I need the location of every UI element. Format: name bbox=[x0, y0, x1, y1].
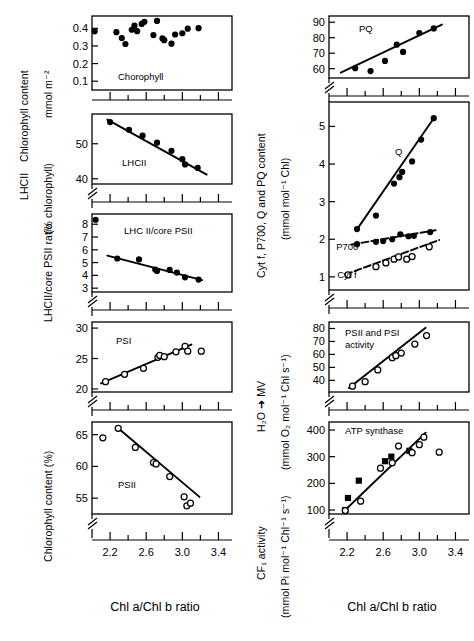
y-tick-label: 30 bbox=[76, 322, 88, 334]
data-point-open bbox=[342, 508, 348, 514]
y-tick-label: 8 bbox=[82, 218, 88, 230]
data-point-filled bbox=[179, 30, 185, 36]
data-point-open bbox=[187, 500, 193, 506]
data-point-filled bbox=[154, 140, 160, 146]
data-point-filled bbox=[391, 180, 397, 186]
data-point-open bbox=[167, 474, 173, 480]
panel-pq: 60708090PQ bbox=[299, 14, 471, 94]
axis-title-content-units: (mmol mol⁻¹ Chl) bbox=[279, 158, 291, 240]
x-tick-label: 3.0 bbox=[175, 546, 190, 558]
data-point-filled bbox=[122, 41, 128, 47]
axis-break bbox=[325, 514, 334, 538]
axis-break bbox=[325, 290, 334, 314]
y-tick-label: 4 bbox=[82, 269, 88, 281]
y-tick-label: 55 bbox=[76, 492, 88, 504]
data-point-filled bbox=[93, 217, 99, 223]
axis-break bbox=[325, 78, 334, 102]
y-tick-label: 3 bbox=[319, 196, 325, 208]
x-tick-label: 2.6 bbox=[376, 546, 391, 558]
data-point-open bbox=[181, 494, 187, 500]
data-point-open bbox=[375, 367, 381, 373]
y-tick-label: 3 bbox=[82, 282, 88, 294]
chart-lhcii_core: 345678LHC II/core PSII bbox=[62, 212, 238, 318]
data-point-square bbox=[356, 478, 362, 484]
data-point-filled bbox=[185, 26, 191, 32]
data-point-filled bbox=[131, 23, 137, 29]
panel-lhcii: 4050LHCII bbox=[62, 112, 234, 204]
axis-title-chlorophyll-content: Chlorophyll content bbox=[18, 70, 30, 162]
data-point-filled bbox=[405, 233, 411, 239]
data-point-open bbox=[185, 348, 191, 354]
y-tick-label: 2 bbox=[319, 233, 325, 245]
data-point-filled bbox=[126, 127, 132, 133]
data-point-filled bbox=[352, 65, 358, 71]
data-point-filled bbox=[174, 269, 180, 275]
data-point-open bbox=[436, 449, 442, 455]
x-axis-label-right: Chl a/Chl b ratio bbox=[322, 600, 462, 614]
data-point-open bbox=[349, 383, 355, 389]
x-tick-label: 2.2 bbox=[339, 546, 354, 558]
chart-psi: 202530PSI bbox=[62, 320, 238, 418]
data-point-open bbox=[132, 444, 138, 450]
y-tick-label: 80 bbox=[313, 322, 325, 334]
data-point-filled bbox=[394, 42, 400, 48]
data-point-filled bbox=[92, 28, 98, 34]
data-point-filled bbox=[172, 31, 178, 37]
chart-content: 12345QP700Cyt f bbox=[299, 100, 474, 316]
data-point-filled bbox=[141, 19, 147, 25]
panel-chlorophyll: 0.10.20.30.4Chorophyll bbox=[62, 14, 234, 106]
y-tick-label: 20 bbox=[76, 383, 88, 395]
plot-title-chlorophyll: Chorophyll bbox=[118, 71, 163, 82]
data-point-filled bbox=[400, 49, 406, 55]
data-point-filled bbox=[139, 133, 145, 139]
data-point-filled bbox=[161, 37, 167, 43]
data-point-open bbox=[396, 443, 402, 449]
series-psi bbox=[103, 343, 205, 384]
data-point-open bbox=[362, 379, 368, 385]
data-point-open bbox=[416, 442, 422, 448]
plot-title-lhcii: LHCII bbox=[122, 157, 146, 168]
y-tick-label: 100 bbox=[307, 504, 325, 516]
y-tick-label: 40 bbox=[76, 173, 88, 185]
data-point-filled bbox=[431, 115, 437, 121]
series-chlorophyll bbox=[92, 18, 202, 47]
panel-psi: 202530PSI bbox=[62, 320, 234, 412]
x-axis-label-left: Chl a/Chl b ratio bbox=[85, 600, 225, 614]
data-point-open bbox=[409, 254, 415, 260]
data-point-open bbox=[421, 434, 427, 440]
y-tick-label: 50 bbox=[313, 361, 325, 373]
y-tick-label: 65 bbox=[76, 429, 88, 441]
axis-title-lhcii-core-psii: LHCII/core PSII ratio bbox=[42, 224, 54, 322]
data-point-filled bbox=[354, 226, 360, 232]
panel-cf1: 1002003004002.22.63.03.4ATP synthase bbox=[299, 420, 471, 560]
axis-title-activity-units: (mmol O₂ mol⁻¹ Chl s⁻¹) bbox=[279, 354, 291, 470]
data-point-filled bbox=[136, 256, 142, 262]
axis-title-chlorophyll-percent: Chlorophyll content (%) bbox=[42, 451, 54, 562]
data-point-filled bbox=[182, 161, 188, 167]
y-tick-label: 60 bbox=[313, 63, 325, 75]
panel-activity: 4050607080PSII and PSIactivity bbox=[299, 320, 471, 412]
data-point-filled bbox=[168, 41, 174, 47]
y-tick-label: 5 bbox=[82, 257, 88, 269]
y-tick-label: 60 bbox=[313, 348, 325, 360]
data-point-open bbox=[383, 260, 389, 266]
data-point-filled bbox=[382, 58, 388, 64]
y-tick-label: 0.2 bbox=[73, 58, 88, 70]
panel-content: 12345QP700Cyt f bbox=[299, 100, 471, 312]
data-point-square bbox=[345, 495, 351, 501]
x-tick-label: 3.4 bbox=[211, 546, 226, 558]
y-tick-label: 90 bbox=[313, 16, 325, 28]
data-point-filled bbox=[107, 119, 113, 125]
data-point-filled bbox=[179, 156, 185, 162]
chart-lhcii: 4050LHCII bbox=[62, 112, 238, 210]
axis-title-cytf-p700-q-pq: Cyt f, P700, Q and PQ content bbox=[255, 133, 267, 278]
y-tick-label: 1 bbox=[319, 271, 325, 283]
data-point-filled bbox=[418, 137, 424, 143]
data-point-open bbox=[153, 461, 159, 467]
data-point-filled bbox=[409, 158, 415, 164]
y-tick-label: 0.1 bbox=[73, 75, 88, 87]
x-tick-label: 3.0 bbox=[412, 546, 427, 558]
axis-break bbox=[88, 392, 97, 416]
data-point-open bbox=[161, 354, 167, 360]
y-tick-label: 80 bbox=[313, 32, 325, 44]
